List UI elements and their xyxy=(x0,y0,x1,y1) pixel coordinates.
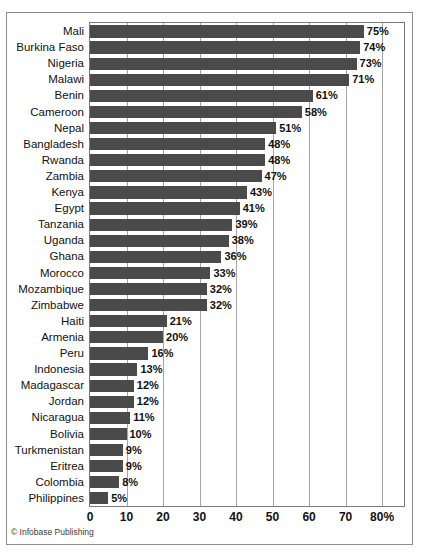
bar-row: 51% xyxy=(90,120,404,136)
bar-value-label: 71% xyxy=(352,72,374,86)
bar-row: 32% xyxy=(90,281,404,297)
category-label: Kenya xyxy=(51,184,84,200)
bar-value-label: 11% xyxy=(133,410,154,424)
bar-value-label: 39% xyxy=(235,217,257,231)
bar-row: 33% xyxy=(90,265,404,281)
x-tick-label: 50 xyxy=(266,510,279,524)
category-axis-labels: MaliBurkina FasoNigeriaMalawiBeninCamero… xyxy=(7,22,87,509)
bar xyxy=(90,154,265,166)
plot-wrapper: 75%74%73%71%61%58%51%48%48%47%43%41%39%3… xyxy=(89,22,405,509)
category-label: Armenia xyxy=(41,329,84,345)
x-tick-label: 30 xyxy=(193,510,206,524)
bar-row: 48% xyxy=(90,152,404,168)
bar xyxy=(90,492,108,504)
bar-value-label: 9% xyxy=(126,459,142,473)
category-label: Zambia xyxy=(46,168,84,184)
bar-value-label: 32% xyxy=(210,282,232,296)
category-label: Turkmenistan xyxy=(15,442,84,458)
bar xyxy=(90,331,163,343)
bar-row: 73% xyxy=(90,55,404,71)
bar-value-label: 51% xyxy=(279,121,301,135)
bar-row: 21% xyxy=(90,313,404,329)
category-label: Tanzania xyxy=(38,216,84,232)
bar-row: 36% xyxy=(90,248,404,264)
bar xyxy=(90,460,123,472)
bar xyxy=(90,90,313,102)
x-tick-label: 10 xyxy=(120,510,133,524)
bar xyxy=(90,25,364,37)
bar xyxy=(90,138,265,150)
bar-value-label: 75% xyxy=(367,24,389,38)
credit-text: © Infobase Publishing xyxy=(11,527,94,537)
category-label: Philippines xyxy=(28,490,84,506)
bar xyxy=(90,299,207,311)
category-label: Morocco xyxy=(40,265,84,281)
bar xyxy=(90,219,232,231)
bar-row: 39% xyxy=(90,216,404,232)
bar-row: 10% xyxy=(90,426,404,442)
bar-value-label: 16% xyxy=(151,346,173,360)
category-label: Nicaragua xyxy=(32,409,84,425)
bar-value-label: 74% xyxy=(363,40,385,54)
bar-value-label: 47% xyxy=(265,169,287,183)
bar-row: 12% xyxy=(90,393,404,409)
x-tick-label: 60 xyxy=(302,510,315,524)
bar xyxy=(90,283,207,295)
bar xyxy=(90,74,349,86)
bar-value-label: 9% xyxy=(126,443,142,457)
bar xyxy=(90,202,240,214)
bar xyxy=(90,267,210,279)
bar xyxy=(90,380,134,392)
bar xyxy=(90,315,167,327)
bar xyxy=(90,186,247,198)
bar-row: 13% xyxy=(90,361,404,377)
category-label: Cameroon xyxy=(30,104,84,120)
bar-row: 16% xyxy=(90,345,404,361)
category-label: Rwanda xyxy=(42,152,84,168)
x-axis-tick-labels: 01020304050607080% xyxy=(89,510,409,528)
bar xyxy=(90,363,137,375)
category-label: Bolivia xyxy=(50,426,84,442)
category-label: Haiti xyxy=(61,313,84,329)
bar-row: 5% xyxy=(90,490,404,506)
chart-figure: MaliBurkina FasoNigeriaMalawiBeninCamero… xyxy=(6,12,413,545)
bar-row: 12% xyxy=(90,377,404,393)
category-label: Peru xyxy=(60,345,84,361)
category-label: Indonesia xyxy=(34,361,84,377)
bar-value-label: 8% xyxy=(122,475,138,489)
bar xyxy=(90,251,221,263)
bar-row: 74% xyxy=(90,39,404,55)
x-tick-label: 80% xyxy=(370,510,394,524)
x-tick-label: 0 xyxy=(87,510,94,524)
bar-value-label: 73% xyxy=(360,56,382,70)
bar xyxy=(90,106,302,118)
bar xyxy=(90,347,148,359)
bar xyxy=(90,396,134,408)
bar-row: 71% xyxy=(90,71,404,87)
bar-row: 47% xyxy=(90,168,404,184)
category-label: Bangladesh xyxy=(23,136,84,152)
bar-value-label: 61% xyxy=(316,88,338,102)
bar-row: 9% xyxy=(90,442,404,458)
bar xyxy=(90,235,229,247)
category-label: Nigeria xyxy=(48,55,84,71)
category-label: Mali xyxy=(63,23,84,39)
bar-value-label: 48% xyxy=(268,153,290,167)
bar-row: 8% xyxy=(90,474,404,490)
bar-row: 9% xyxy=(90,458,404,474)
category-label: Egypt xyxy=(55,200,84,216)
bar-value-label: 12% xyxy=(137,378,159,392)
bar-value-label: 41% xyxy=(243,201,265,215)
bar-row: 38% xyxy=(90,232,404,248)
category-label: Burkina Faso xyxy=(16,39,84,55)
x-tick-label: 40 xyxy=(229,510,242,524)
bar-value-label: 58% xyxy=(305,105,327,119)
category-label: Uganda xyxy=(44,232,84,248)
bar xyxy=(90,58,357,70)
category-label: Colombia xyxy=(35,474,84,490)
bar-rows: 75%74%73%71%61%58%51%48%48%47%43%41%39%3… xyxy=(90,23,404,506)
bar-value-label: 20% xyxy=(166,330,188,344)
category-label: Nepal xyxy=(54,120,84,136)
bar-row: 11% xyxy=(90,409,404,425)
bar-row: 75% xyxy=(90,23,404,39)
